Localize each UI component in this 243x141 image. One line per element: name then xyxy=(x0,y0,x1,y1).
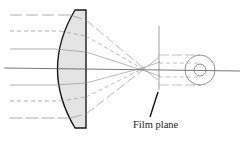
lens-ray-diagram xyxy=(0,0,243,141)
converging-rays xyxy=(86,20,160,114)
optical-axis xyxy=(4,68,240,71)
film-plane-leader xyxy=(150,92,158,117)
blur-circle-inner xyxy=(194,64,206,76)
film-plane-label: Film plane xyxy=(133,119,178,130)
